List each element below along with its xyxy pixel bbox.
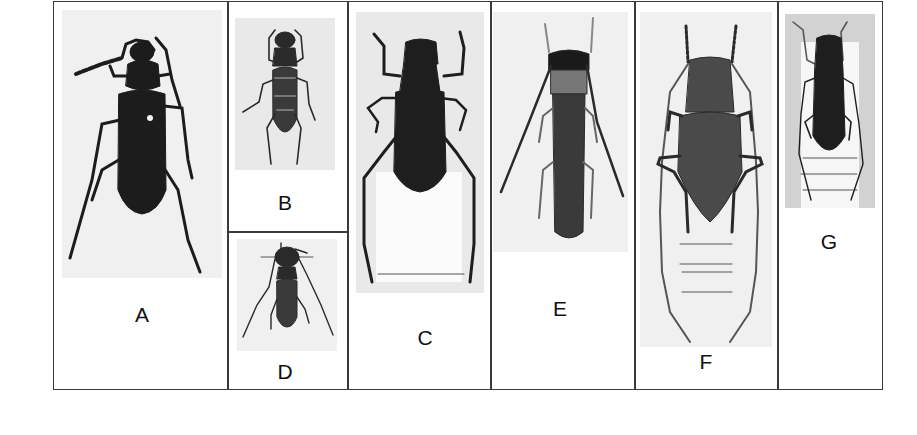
panel-label-g: G [809,231,849,252]
beetle-b-icon [235,18,335,170]
specimen-photo-d [237,239,337,351]
beetle-d-icon [237,239,337,351]
panel-label-f: F [686,351,726,372]
specimen-photo-e [493,12,628,252]
specimen-figure-plate: A B [53,1,883,390]
beetle-f-icon [640,12,772,347]
panel-f: F [636,2,777,389]
specimen-photo-c [356,12,484,293]
beetle-c-icon [356,12,484,293]
panel-d: D [229,233,347,389]
beetle-g-icon [785,14,875,208]
panel-label-e: E [540,298,580,319]
panel-label-b: B [265,192,305,213]
panel-a: A [54,2,228,389]
panel-label-c: C [405,327,445,348]
beetle-e-icon [493,12,628,252]
panel-label-d: D [265,361,305,382]
panel-e: E [492,2,634,389]
specimen-photo-b [235,18,335,170]
panel-label-a: A [122,304,162,325]
panel-c: C [349,2,490,389]
panel-b: B [229,2,347,231]
specimen-photo-f [640,12,772,347]
specimen-photo-g [785,14,875,208]
beetle-a-icon [62,10,222,278]
panel-g: G [779,2,883,389]
specimen-photo-a [62,10,222,278]
